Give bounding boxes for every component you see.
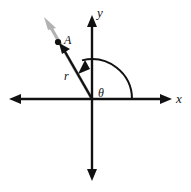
y-axis-bottom-arrowhead [87, 169, 97, 181]
x-axis-right-arrowhead [160, 94, 172, 104]
angle-arc [78, 59, 132, 99]
terminal-ray-arrowhead [44, 17, 56, 30]
x-axis-left-arrowhead [9, 94, 21, 104]
angle-arc-arrowhead [78, 60, 90, 74]
y-axis-label: y [95, 5, 103, 20]
diagram-canvas: A r θ y x [0, 0, 191, 192]
y-axis-top-arrowhead [87, 15, 97, 27]
polar-angle-diagram: A r θ y x [0, 0, 191, 192]
point-a-marker [55, 39, 61, 45]
r-vector-label: r [64, 69, 69, 83]
x-axis-label: x [175, 91, 182, 106]
point-a-label: A [63, 33, 72, 47]
angle-theta-label: θ [98, 86, 104, 100]
